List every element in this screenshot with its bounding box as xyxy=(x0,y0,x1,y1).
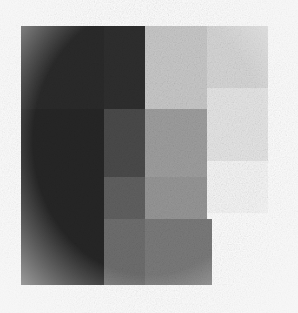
heatmap-cell xyxy=(145,109,207,177)
heatmap-cell xyxy=(104,177,145,219)
heatmap-cell xyxy=(21,109,104,177)
heatmap-cell xyxy=(207,88,268,161)
heatmap-cell xyxy=(145,219,212,285)
heatmap-cell xyxy=(104,109,145,177)
heatmap-cell xyxy=(21,219,104,285)
heatmap-cell xyxy=(145,26,207,109)
heatmap-cell xyxy=(104,26,145,109)
heatmap-cell xyxy=(104,219,145,285)
heatmap-cell xyxy=(207,26,268,88)
heatmap-cell xyxy=(21,177,104,219)
heatmap-cell xyxy=(145,177,207,219)
heatmap-cell xyxy=(21,26,104,109)
figure-canvas xyxy=(0,0,298,313)
heatmap-cell xyxy=(207,161,268,213)
